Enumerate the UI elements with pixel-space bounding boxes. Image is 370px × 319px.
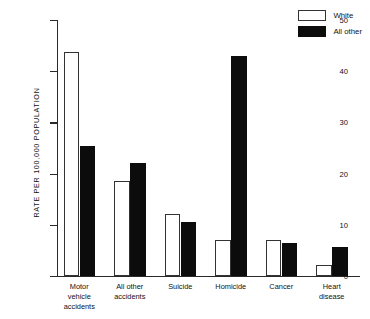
x-axis-label: Homicide bbox=[206, 282, 257, 292]
bar-white bbox=[64, 52, 80, 276]
bar-all-other bbox=[130, 163, 146, 276]
x-axis-label: All otheraccidents bbox=[105, 282, 156, 302]
bar-white bbox=[114, 181, 130, 276]
x-axis-line bbox=[57, 276, 360, 277]
bar-white bbox=[266, 240, 282, 276]
bar-chart: RATE PER 100,000 POPULATION White All ot… bbox=[0, 0, 370, 319]
x-axis-label-line: accidents bbox=[105, 292, 156, 302]
y-axis-tick bbox=[50, 276, 58, 277]
y-axis-tick-label: 10 bbox=[324, 220, 348, 229]
x-axis-label-line: All other bbox=[105, 282, 156, 292]
y-axis-tick-label: 30 bbox=[324, 118, 348, 127]
bar-white bbox=[316, 265, 332, 276]
y-axis-line bbox=[57, 20, 58, 277]
bar-all-other bbox=[231, 56, 247, 276]
y-axis-tick-label: 40 bbox=[324, 67, 348, 76]
y-axis-tick-label: 50 bbox=[324, 16, 348, 25]
x-axis-label-line: Heart bbox=[307, 282, 358, 292]
x-axis-label-line: Homicide bbox=[206, 282, 257, 292]
bar-white bbox=[215, 240, 231, 276]
y-axis-tick bbox=[50, 20, 58, 21]
x-axis-label-line: disease bbox=[307, 292, 358, 302]
x-axis-label-line: Motor bbox=[54, 282, 105, 292]
bar-all-other bbox=[332, 247, 348, 276]
plot-area: 01020304050 MotorvehicleaccidentsAll oth… bbox=[57, 20, 360, 277]
y-axis-tick bbox=[50, 225, 58, 226]
bar-all-other bbox=[282, 243, 298, 276]
x-axis-label-line: Suicide bbox=[155, 282, 206, 292]
bar-all-other bbox=[181, 222, 197, 276]
x-axis-label-line: Cancer bbox=[256, 282, 307, 292]
x-axis-label: Motorvehicleaccidents bbox=[54, 282, 105, 313]
y-axis-tick bbox=[50, 71, 58, 72]
y-axis-tick-label: 20 bbox=[324, 169, 348, 178]
bar-all-other bbox=[80, 146, 96, 276]
x-axis-label: Cancer bbox=[256, 282, 307, 292]
x-axis-label-line: vehicle bbox=[54, 292, 105, 302]
y-axis-tick bbox=[50, 122, 58, 123]
y-axis-title: RATE PER 100,000 POPULATION bbox=[32, 53, 41, 253]
x-axis-label-line: accidents bbox=[54, 302, 105, 312]
y-axis-tick bbox=[50, 174, 58, 175]
bar-white bbox=[165, 214, 181, 276]
x-axis-label: Heartdisease bbox=[307, 282, 358, 302]
x-axis-label: Suicide bbox=[155, 282, 206, 292]
